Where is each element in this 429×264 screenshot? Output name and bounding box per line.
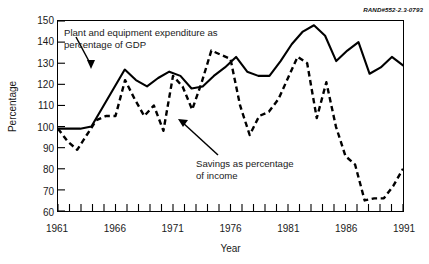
annotation-savings-line1: Savings as percentage: [196, 158, 294, 170]
y-tick-130: 130: [22, 57, 54, 68]
annotation-savings: Savings as percentage of income: [196, 158, 294, 183]
arrow-to-savings-line: [182, 122, 218, 155]
x-axis-title: Year: [57, 243, 404, 254]
y-tick-100: 100: [22, 121, 54, 132]
x-tick-1971: 1971: [162, 223, 184, 234]
annotation-plant-equipment: Plant and equipment expenditure as perce…: [64, 27, 218, 52]
y-tick-70: 70: [22, 185, 54, 196]
x-tick-1966: 1966: [104, 223, 126, 234]
chart-figure: RAND#552-2.3-0793 Percentage 60708090100…: [0, 0, 429, 264]
x-tick-1976: 1976: [219, 223, 241, 234]
x-axis-minor-ticks: [58, 204, 403, 211]
y-axis-title-text: Percentage: [8, 80, 19, 131]
annotation-plant-line1: Plant and equipment expenditure as: [64, 27, 218, 39]
y-tick-90: 90: [22, 143, 54, 154]
y-tick-120: 120: [22, 79, 54, 90]
rand-credit-label: RAND#552-2.3-0793: [363, 6, 423, 13]
y-tick-60: 60: [22, 207, 54, 218]
x-tick-1991: 1991: [393, 223, 415, 234]
y-tick-110: 110: [22, 100, 54, 111]
x-tick-1961: 1961: [46, 223, 68, 234]
arrow-head-plant: [87, 60, 95, 69]
y-tick-80: 80: [22, 164, 54, 175]
annotation-savings-line2: of income: [196, 170, 294, 182]
x-tick-1986: 1986: [335, 223, 357, 234]
y-tick-140: 140: [22, 36, 54, 47]
y-tick-150: 150: [22, 15, 54, 26]
annotation-plant-line2: percentage of GDP: [64, 39, 218, 51]
x-tick-1981: 1981: [277, 223, 299, 234]
x-axis-title-text: Year: [220, 243, 240, 254]
